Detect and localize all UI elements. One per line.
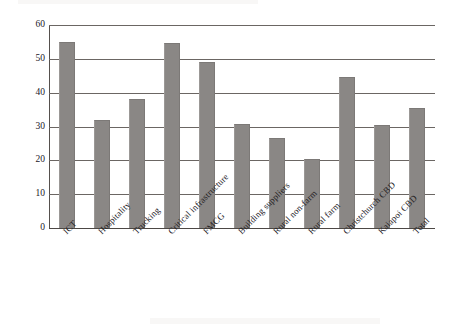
scan-artifact-top: [18, 0, 258, 4]
bar: [164, 43, 180, 228]
bar-chart-figure: Response rate (%) 0102030405060 ICTHospi…: [0, 0, 449, 329]
y-tick-label: 40: [19, 87, 45, 97]
bar: [339, 77, 355, 228]
bar: [409, 108, 425, 228]
bar: [59, 42, 75, 228]
y-tick-label: 0: [19, 222, 45, 232]
bar: [129, 99, 145, 228]
y-tick-label: 30: [19, 121, 45, 131]
y-tick-label: 20: [19, 154, 45, 164]
y-tick-label: 10: [19, 188, 45, 198]
bar: [374, 125, 390, 228]
y-tick-label: 50: [19, 53, 45, 63]
x-tick-labels-group: ICTHospitalityTruckingCritical infrastru…: [49, 229, 449, 329]
y-tick-label: 60: [19, 19, 45, 29]
bar: [234, 124, 250, 228]
bar: [94, 120, 110, 228]
